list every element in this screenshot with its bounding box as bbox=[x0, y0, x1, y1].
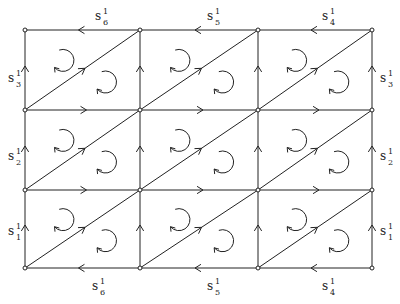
vertex bbox=[256, 108, 260, 112]
vertex bbox=[370, 108, 374, 112]
vertex bbox=[370, 266, 374, 270]
edge-label-subscript: 6 bbox=[100, 288, 105, 297]
diagonal-edge bbox=[140, 190, 258, 268]
edge-label-subscript: 2 bbox=[16, 158, 21, 167]
edge-label-bottom: s bbox=[92, 279, 98, 293]
vertex bbox=[138, 266, 142, 270]
edge-label-top: s bbox=[207, 9, 213, 23]
vertex bbox=[370, 28, 374, 32]
edge-label-left: s bbox=[8, 71, 14, 85]
edge-label-subscript: 3 bbox=[16, 80, 21, 89]
edge-label-subscript: 5 bbox=[215, 18, 220, 27]
diagonal-edge bbox=[25, 190, 140, 268]
edge-label-left: s bbox=[8, 149, 14, 163]
edge-label-superscript: 1 bbox=[388, 69, 393, 78]
triangulation-diagram: s16s15s14s16s15s14s13s12s11s13s12s11 bbox=[0, 0, 400, 304]
diagonal-edge bbox=[258, 30, 372, 110]
edge-label-superscript: 1 bbox=[103, 7, 108, 16]
edge-label-top: s bbox=[95, 9, 101, 23]
edge-label-superscript: 1 bbox=[215, 7, 220, 16]
edge-label-top: s bbox=[322, 9, 328, 23]
edge-label-bottom: s bbox=[207, 279, 213, 293]
edge-label-superscript: 1 bbox=[388, 147, 393, 156]
edge-label-superscript: 1 bbox=[388, 222, 393, 231]
edge-labels: s16s15s14s16s15s14s13s12s11s13s12s11 bbox=[8, 7, 393, 297]
edge-label-right: s bbox=[380, 224, 386, 238]
orientation-arrows bbox=[55, 49, 349, 252]
edge-label-subscript: 6 bbox=[103, 18, 108, 27]
diagonal-edge bbox=[258, 110, 372, 190]
vertex bbox=[138, 28, 142, 32]
edge-label-superscript: 1 bbox=[16, 222, 21, 231]
edge-label-superscript: 1 bbox=[215, 277, 220, 286]
edge-label-left: s bbox=[8, 224, 14, 238]
edge-label-superscript: 1 bbox=[100, 277, 105, 286]
diagonal-edge bbox=[140, 30, 258, 110]
vertex bbox=[23, 266, 27, 270]
vertex bbox=[256, 266, 260, 270]
edge-label-subscript: 4 bbox=[330, 18, 335, 27]
edge-label-superscript: 1 bbox=[16, 147, 21, 156]
vertex bbox=[370, 188, 374, 192]
edge-label-subscript: 3 bbox=[388, 80, 393, 89]
diagonal-edge bbox=[25, 110, 140, 190]
edge-label-superscript: 1 bbox=[330, 277, 335, 286]
edge-label-subscript: 5 bbox=[215, 288, 220, 297]
edge-label-superscript: 1 bbox=[330, 7, 335, 16]
edge-label-right: s bbox=[380, 149, 386, 163]
edge-label-subscript: 4 bbox=[330, 288, 335, 297]
edge-label-right: s bbox=[380, 71, 386, 85]
vertex bbox=[256, 28, 260, 32]
grid-edges bbox=[25, 30, 372, 268]
edge-label-subscript: 1 bbox=[16, 233, 21, 242]
edge-label-subscript: 1 bbox=[388, 233, 393, 242]
diagonal-edge bbox=[25, 30, 140, 110]
edge-label-superscript: 1 bbox=[16, 69, 21, 78]
diagonal-edge bbox=[258, 190, 372, 268]
vertex bbox=[23, 28, 27, 32]
vertex bbox=[138, 108, 142, 112]
vertex bbox=[23, 108, 27, 112]
edge-label-bottom: s bbox=[322, 279, 328, 293]
vertex bbox=[23, 188, 27, 192]
vertex bbox=[138, 188, 142, 192]
diagonal-edge bbox=[140, 110, 258, 190]
vertex bbox=[256, 188, 260, 192]
edge-label-subscript: 2 bbox=[388, 158, 393, 167]
